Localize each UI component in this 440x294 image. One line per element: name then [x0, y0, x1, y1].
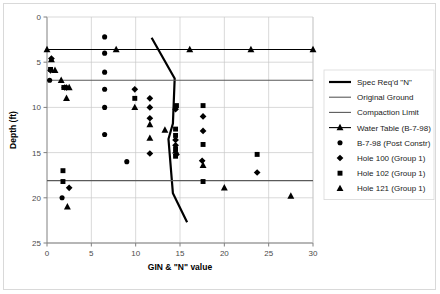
x-tick-label: 30 — [309, 249, 318, 258]
legend-label: Original Ground — [357, 93, 413, 102]
data-point-circle — [102, 51, 107, 56]
data-point-diamond — [199, 157, 206, 164]
y-axis-title: Depth (ft) — [8, 111, 18, 149]
data-point-square — [173, 154, 178, 159]
data-point-diamond — [146, 104, 153, 111]
data-point-diamond — [146, 95, 153, 102]
chart-figure: 0510152025300510152025 GIN & "N" valueDe… — [0, 0, 440, 294]
data-point-diamond — [200, 113, 207, 120]
data-point-square — [255, 152, 260, 157]
data-point-diamond — [131, 86, 138, 93]
x-tick-label: 15 — [176, 249, 185, 258]
legend-label: Compaction Limit — [357, 108, 420, 117]
data-point-square — [201, 142, 206, 147]
data-point-diamond — [254, 169, 261, 176]
y-tick-label: 0 — [37, 13, 42, 22]
y-tick-label: 5 — [37, 58, 42, 67]
data-point-circle — [47, 78, 52, 83]
legend-box — [324, 70, 434, 200]
y-tick-label: 25 — [32, 239, 41, 248]
data-point-square — [173, 133, 178, 138]
x-tick-label: 0 — [45, 249, 50, 258]
data-point-triangle — [131, 104, 138, 110]
legend-label: Hole 100 (Group 1) — [357, 154, 426, 163]
data-point-triangle — [63, 95, 70, 101]
series-line — [152, 38, 187, 222]
data-point-square — [173, 127, 178, 132]
x-tick-label: 5 — [89, 249, 94, 258]
scatter-chart: 0510152025300510152025 GIN & "N" valueDe… — [0, 0, 440, 294]
data-point-diamond — [146, 150, 153, 157]
x-tick-label: 25 — [264, 249, 273, 258]
legend-label: B-7-98 (Post Constr) — [357, 139, 431, 148]
series-hole-102-group-1 — [48, 67, 260, 184]
series-spec-req-d-n — [152, 38, 187, 222]
data-point-square — [61, 168, 66, 173]
data-point-square — [174, 103, 179, 108]
data-point-circle — [60, 195, 65, 200]
data-point-square — [338, 171, 343, 176]
data-point-circle — [102, 70, 107, 75]
data-point-circle — [337, 140, 342, 145]
data-point-triangle — [287, 192, 294, 198]
y-tick-label: 20 — [32, 194, 41, 203]
data-point-triangle — [161, 126, 168, 132]
data-point-triangle — [221, 184, 228, 190]
chart-legend: Spec Req'd "N"Original GroundCompaction … — [324, 70, 434, 200]
data-point-square — [201, 179, 206, 184]
data-point-circle — [102, 132, 107, 137]
y-tick-label: 10 — [32, 103, 41, 112]
data-point-triangle — [146, 134, 153, 140]
x-tick-label: 10 — [131, 249, 140, 258]
data-point-circle — [124, 159, 129, 164]
axes-layer — [44, 17, 314, 247]
data-point-square — [132, 96, 137, 101]
data-point-triangle — [64, 203, 71, 209]
x-tick-label: 20 — [220, 249, 229, 258]
data-point-square — [48, 67, 53, 72]
data-point-diamond — [146, 115, 153, 122]
y-tick-label: 15 — [32, 149, 41, 158]
data-point-square — [61, 85, 66, 90]
data-point-circle — [102, 87, 107, 92]
data-point-diamond — [200, 128, 207, 135]
data-point-circle — [102, 105, 107, 110]
series-hole-100-group-1 — [47, 55, 260, 191]
data-point-square — [61, 179, 66, 184]
legend-label: Hole 102 (Group 1) — [357, 169, 426, 178]
data-point-square — [201, 103, 206, 108]
data-point-circle — [102, 34, 107, 39]
legend-label: Hole 121 (Group 1) — [357, 184, 426, 193]
legend-label: Water Table (B-7-98) — [357, 124, 431, 133]
data-point-triangle — [146, 121, 153, 127]
series-b-7-98-post-constr — [47, 34, 129, 200]
data-point-diamond — [66, 184, 73, 191]
legend-label: Spec Req'd "N" — [357, 78, 412, 87]
x-axis-title: GIN & "N" value — [148, 262, 213, 272]
